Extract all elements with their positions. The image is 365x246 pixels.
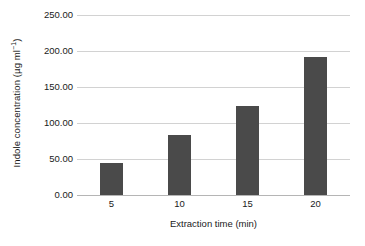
bar-series [77,15,350,195]
bar-15min[interactable] [236,106,259,195]
y-axis-title-exponent: −1 [10,42,17,50]
x-tick-label: 10 [160,198,200,210]
x-tick-label: 20 [296,198,336,210]
x-tick-label: 15 [228,198,268,210]
bar-20min[interactable] [304,57,327,195]
y-tick-label: 200.00 [29,46,73,56]
x-tick-label: 5 [92,198,132,210]
y-axis-tick-labels: 250.00 200.00 150.00 100.00 50.00 0.00 [28,0,73,246]
x-axis-title: Extraction time (min) [77,218,350,230]
y-tick-label: 150.00 [29,82,73,92]
y-axis-title-tail: ) [11,39,22,42]
y-axis-title: Indole concentration (µg ml−1) [10,3,24,203]
y-tick-label: 250.00 [29,10,73,20]
y-tick-label: 0.00 [29,190,73,200]
bar-5min[interactable] [100,163,123,195]
bar-10min[interactable] [168,135,191,195]
y-tick-label: 100.00 [29,118,73,128]
y-axis-title-main: Indole concentration (µg ml [11,50,22,167]
x-axis-tick-labels: 5 10 15 20 [77,198,350,212]
bar-chart-figure: Indole concentration (µg ml−1) 250.00 20… [0,0,365,246]
y-tick-label: 50.00 [29,154,73,164]
plot-area [77,15,350,195]
x-axis-line [77,195,350,196]
